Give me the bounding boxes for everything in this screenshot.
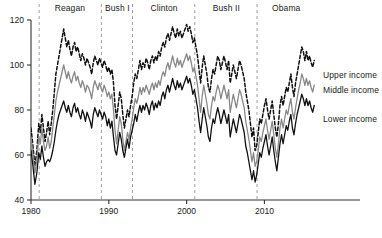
series-line-lower-income xyxy=(31,76,314,184)
y-axis-tick-label: 60 xyxy=(0,150,24,160)
y-axis-tick-label: 40 xyxy=(0,195,24,205)
administration-label-clinton: Clinton xyxy=(150,3,177,13)
y-axis-tick-label: 80 xyxy=(0,105,24,115)
chart-container: 4060801001201980199020002010ReaganBush I… xyxy=(0,0,382,238)
x-axis-tick-label: 1980 xyxy=(22,206,41,216)
y-axis-tick-label: 100 xyxy=(0,60,24,70)
x-axis-tick-label: 1990 xyxy=(99,206,118,216)
administration-label-obama: Obama xyxy=(272,3,300,13)
y-axis-tick-label: 120 xyxy=(0,15,24,25)
series-line-middle-income xyxy=(31,54,314,173)
legend-label-middle-income: Middle income xyxy=(323,85,379,95)
administration-label-bush-ii: Bush II xyxy=(213,3,240,13)
series-line-upper-income xyxy=(31,25,314,167)
legend-label-lower-income: Lower income xyxy=(323,114,377,124)
x-axis-tick-label: 2000 xyxy=(177,206,196,216)
administration-label-reagan: Reagan xyxy=(55,3,85,13)
legend-label-upper-income: Upper income xyxy=(323,70,377,80)
x-axis-tick-label: 2010 xyxy=(255,206,274,216)
administration-label-bush-i: Bush I xyxy=(105,3,130,13)
